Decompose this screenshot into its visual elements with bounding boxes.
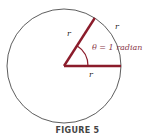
label-arc: r: [115, 22, 120, 31]
radius-angled: [64, 18, 95, 66]
label-radius-left: r: [67, 29, 72, 38]
angle-arc: [77, 46, 88, 66]
radian-diagram: r r r θ = 1 radian: [0, 0, 155, 139]
label-angle: θ = 1 radian: [92, 43, 142, 52]
label-radius-bottom: r: [89, 70, 94, 79]
figure-caption: FIGURE 5: [0, 126, 155, 135]
